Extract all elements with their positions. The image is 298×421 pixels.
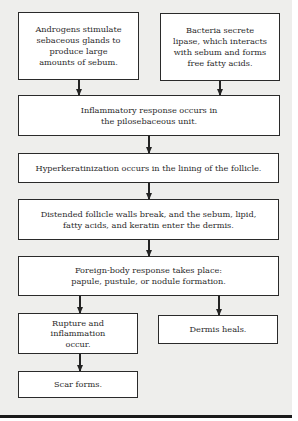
node-dermis-heals-label: Dermis heals.: [190, 324, 247, 335]
arrow-inflammatory-to-hyperkeratinization: [148, 136, 150, 153]
node-foreign-body: Foreign-body response takes place: papul…: [18, 256, 279, 296]
node-bacteria: Bacteria secrete lipase, which interacts…: [160, 13, 280, 81]
node-inflammatory-label: Inflammatory response occurs in the pilo…: [79, 105, 219, 127]
arrow-foreign-body-to-dermis-heals: [218, 296, 220, 315]
node-scar-label: Scar forms.: [54, 379, 102, 390]
node-rupture-label: Rupture and inflammation occur.: [43, 318, 113, 350]
node-inflammatory: Inflammatory response occurs in the pilo…: [18, 95, 280, 136]
node-dermis-heals: Dermis heals.: [158, 315, 278, 344]
node-scar: Scar forms.: [18, 371, 138, 398]
node-distended-label: Distended follicle walls break, and the …: [31, 209, 266, 231]
node-bacteria-label: Bacteria secrete lipase, which interacts…: [173, 25, 267, 69]
arrow-bacteria-to-inflammatory: [219, 81, 221, 95]
arrow-foreign-body-to-rupture: [79, 296, 81, 313]
node-rupture: Rupture and inflammation occur.: [18, 313, 138, 354]
arrow-rupture-to-scar: [79, 354, 81, 371]
arrow-distended-to-foreign-body: [148, 240, 150, 256]
arrow-androgens-to-inflammatory: [78, 80, 80, 95]
arrow-hyperkeratinization-to-distended: [148, 183, 150, 199]
bottom-rule: [0, 415, 292, 418]
node-androgens: Androgens stimulate sebaceous glands to …: [18, 12, 139, 80]
node-distended: Distended follicle walls break, and the …: [18, 199, 279, 240]
node-androgens-label: Androgens stimulate sebaceous glands to …: [31, 24, 126, 68]
node-hyperkeratinization: Hyperkeratinization occurs in the lining…: [18, 153, 279, 183]
node-foreign-body-label: Foreign-body response takes place: papul…: [59, 265, 238, 287]
node-hyperkeratinization-label: Hyperkeratinization occurs in the lining…: [36, 163, 262, 174]
